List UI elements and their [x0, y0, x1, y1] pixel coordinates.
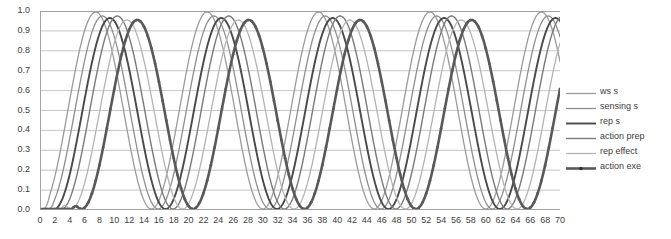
series-marker [536, 192, 539, 195]
series-marker [328, 127, 331, 130]
series-marker [466, 22, 469, 25]
x-tick-label: 14 [139, 215, 149, 225]
series-marker [184, 198, 187, 201]
x-tick-label: 54 [436, 215, 446, 225]
series-marker [291, 187, 294, 190]
x-tick-label: 64 [510, 215, 520, 225]
series-rep-s [40, 18, 560, 209]
legend-item[interactable]: action exe [566, 158, 670, 173]
series-marker [120, 53, 123, 56]
series-marker [154, 62, 157, 65]
series-line [40, 16, 560, 209]
series-marker [146, 34, 149, 37]
series-marker [284, 157, 287, 160]
y-tick-label: 0.2 [17, 165, 30, 174]
series-marker [165, 119, 168, 122]
series-marker [258, 34, 261, 37]
series-marker [455, 53, 458, 56]
series-marker [395, 157, 398, 160]
series-marker [239, 28, 242, 31]
series-marker [232, 53, 235, 56]
x-tick-label: 60 [481, 215, 491, 225]
x-tick-label: 2 [52, 215, 57, 225]
series-marker [440, 127, 443, 130]
series-marker [551, 127, 554, 130]
series-marker [406, 198, 409, 201]
x-tick-label: 66 [525, 215, 535, 225]
series-marker [288, 173, 291, 176]
x-tick-label: 68 [540, 215, 550, 225]
series-marker [72, 206, 75, 209]
series-marker [276, 119, 279, 122]
series-marker [403, 187, 406, 190]
legend: ws ssensing srep saction preprep effecta… [566, 83, 670, 183]
series-marker [514, 187, 517, 190]
x-tick-label: 10 [109, 215, 119, 225]
series-marker [135, 19, 138, 22]
x-axis: 0246810121416182022242628303234363840424… [40, 215, 560, 231]
gridlines [40, 11, 560, 210]
x-tick-label: 58 [466, 215, 476, 225]
series-marker [458, 39, 461, 42]
series-marker [332, 107, 335, 110]
series-marker [314, 192, 317, 195]
x-tick-label: 62 [496, 215, 506, 225]
legend-label: action exe [600, 161, 641, 171]
legend-item[interactable]: rep effect [566, 143, 670, 158]
series-marker [117, 69, 120, 72]
series-marker [496, 99, 499, 102]
legend-line-swatch [566, 115, 596, 126]
legend-label: action prep [600, 131, 645, 141]
x-tick-label: 40 [332, 215, 342, 225]
series-marker [106, 127, 109, 130]
x-tick-label: 4 [67, 215, 72, 225]
series-marker [421, 201, 424, 204]
y-tick-label: 0.8 [17, 46, 30, 55]
series-line [40, 18, 560, 209]
series-marker [499, 119, 502, 122]
y-tick-label: 0.4 [17, 125, 30, 134]
series-marker [262, 47, 265, 50]
series-marker [265, 62, 268, 65]
series-marker [295, 198, 298, 201]
legend-item[interactable]: action prep [566, 128, 670, 143]
series-marker [139, 20, 142, 23]
series-marker [254, 25, 257, 28]
series-line [40, 16, 560, 209]
series-marker [354, 22, 357, 25]
series-marker [124, 39, 127, 42]
series-marker [109, 107, 112, 110]
x-tick-label: 8 [97, 215, 102, 225]
legend-label: sensing s [600, 101, 638, 111]
y-tick-label: 1.0 [17, 6, 30, 15]
y-tick-label: 0.6 [17, 86, 30, 95]
x-tick-label: 6 [82, 215, 87, 225]
x-tick-label: 12 [124, 215, 134, 225]
series-marker [340, 69, 343, 72]
series-marker [299, 205, 302, 208]
series-marker [418, 206, 421, 209]
legend-marker-icon [579, 167, 582, 170]
legend-item[interactable]: ws s [566, 83, 670, 98]
series-marker [470, 19, 473, 22]
x-tick-label: 52 [421, 215, 431, 225]
x-tick-label: 56 [451, 215, 461, 225]
legend-line-swatch [566, 160, 596, 171]
series-marker [533, 201, 536, 204]
series-marker [492, 80, 495, 83]
series-marker [83, 206, 86, 209]
legend-item[interactable]: rep s [566, 113, 670, 128]
x-tick-label: 48 [392, 215, 402, 225]
series-marker [91, 192, 94, 195]
x-tick-label: 50 [406, 215, 416, 225]
legend-item[interactable]: sensing s [566, 98, 670, 113]
series-marker [250, 20, 253, 23]
series-marker [172, 157, 175, 160]
x-tick-label: 36 [302, 215, 312, 225]
line-chart-svg [40, 11, 560, 210]
series-marker [306, 206, 309, 209]
series-marker [425, 192, 428, 195]
series-marker [540, 179, 543, 182]
series-marker [169, 139, 172, 142]
series-marker [447, 88, 450, 91]
